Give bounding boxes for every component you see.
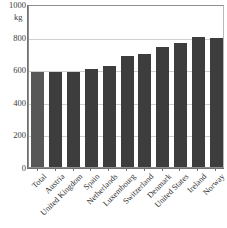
bar: [49, 72, 62, 167]
x-axis-tick: [197, 168, 198, 171]
bar: [174, 43, 187, 167]
bar-chart: kg 10008006004002000 TotalAustriaUnited …: [0, 0, 227, 228]
bar: [85, 69, 98, 167]
y-axis-tick-labels: 10008006004002000: [0, 5, 26, 168]
x-axis-tick: [215, 168, 216, 171]
x-axis-tick: [73, 168, 74, 171]
x-axis-tick: [162, 168, 163, 171]
bar-series: [29, 6, 223, 167]
x-axis-tick: [126, 168, 127, 171]
bar: [192, 37, 205, 167]
x-axis-tick: [179, 168, 180, 171]
x-axis-tick: [37, 168, 38, 171]
bar: [138, 54, 151, 167]
y-axis-tick-label: 600: [4, 66, 26, 74]
y-axis-tick-label: 400: [4, 99, 26, 107]
bar: [156, 47, 169, 167]
bar: [121, 56, 134, 167]
x-axis-tick: [144, 168, 145, 171]
x-axis-tick: [90, 168, 91, 171]
bar: [67, 72, 80, 167]
x-axis-category-labels: TotalAustriaUnited KingdomSpainNetherlan…: [0, 168, 227, 228]
bar: [210, 38, 223, 167]
bar: [103, 66, 116, 167]
bar: [31, 72, 44, 167]
y-axis-tick-label: 1000: [4, 1, 26, 9]
y-axis-tick-label: 200: [4, 131, 26, 139]
plot-area: [28, 5, 224, 168]
x-axis-tick: [108, 168, 109, 171]
y-axis-tick-label: 800: [4, 34, 26, 42]
x-axis-tick: [55, 168, 56, 171]
